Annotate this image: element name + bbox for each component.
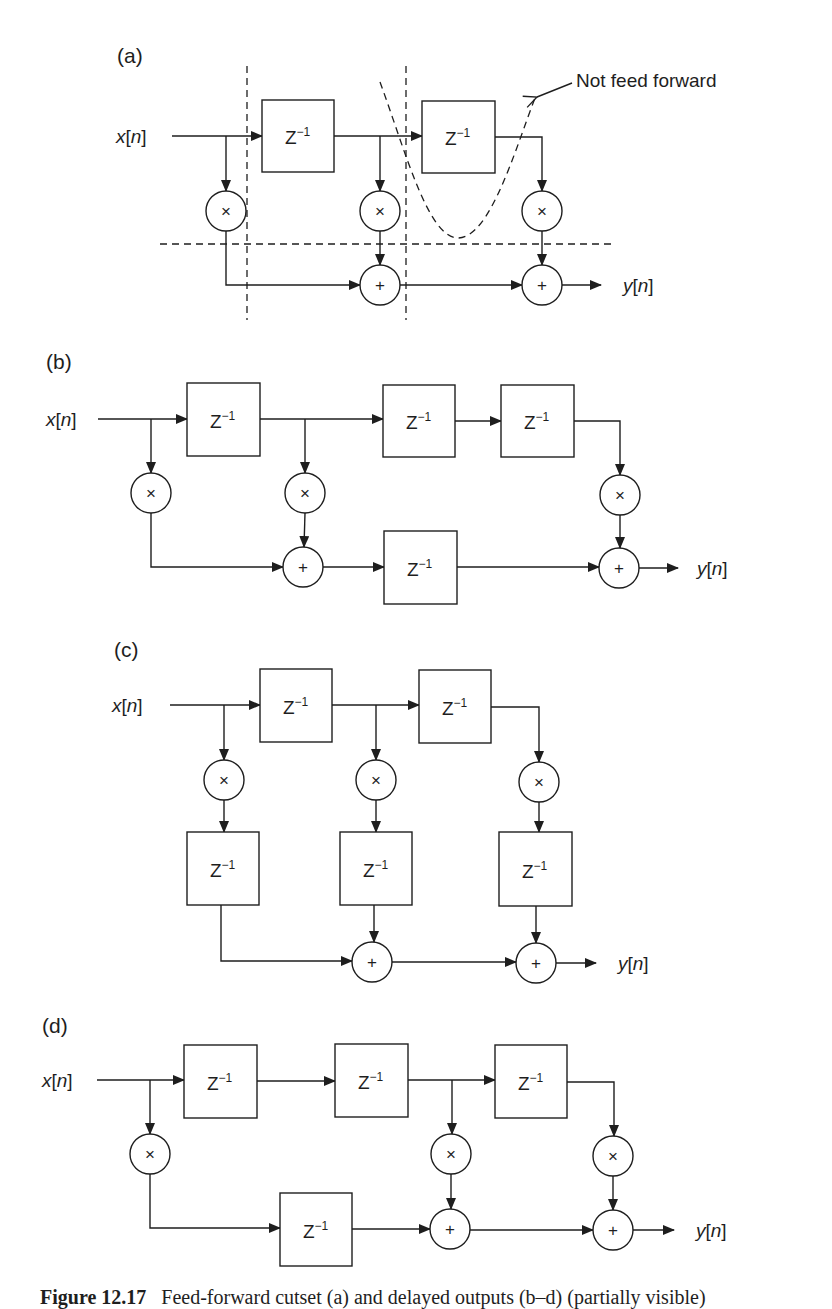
delay-block: Z−1	[419, 670, 491, 743]
adder-node: +	[593, 1210, 633, 1250]
panel-a-label: (a)	[117, 44, 143, 67]
multiplier-node: ×	[431, 1134, 471, 1174]
delay-block: Z−1	[262, 100, 334, 172]
input-label: x[n]	[41, 1070, 73, 1091]
multiplier-node: ×	[360, 191, 400, 231]
multiplier-node: ×	[356, 760, 396, 800]
output-label: y[n]	[694, 1220, 727, 1241]
svg-text:×: ×	[300, 484, 310, 503]
panel-d: (d) x[n] Z−1 Z−1 Z−1 Z−1 × × × + + y[n]	[41, 1014, 727, 1266]
delay-block: Z−1	[187, 832, 259, 905]
adder-node: +	[360, 265, 400, 305]
delay-block: Z−1	[335, 1044, 408, 1117]
svg-text:×: ×	[219, 771, 229, 790]
delay-block: Z−1	[184, 1045, 257, 1118]
svg-text:×: ×	[375, 202, 385, 221]
not-feed-forward-label: Not feed forward	[576, 70, 716, 91]
svg-text:+: +	[445, 1220, 455, 1239]
delay-block: Z−1	[383, 385, 455, 457]
adder-node: +	[352, 942, 392, 982]
multiplier-node: ×	[131, 473, 171, 513]
svg-text:+: +	[537, 276, 547, 295]
svg-text:×: ×	[537, 202, 547, 221]
svg-text:×: ×	[146, 484, 156, 503]
caption-text: Feed-forward cutset (a) and delayed outp…	[161, 1286, 705, 1308]
svg-text:+: +	[614, 559, 624, 578]
svg-text:×: ×	[615, 486, 625, 505]
panel-c: (c) x[n] Z−1 Z−1 Z−1 Z−1 Z−1 × × × + + y…	[111, 638, 649, 983]
multiplier-node: ×	[600, 475, 640, 515]
delay-block: Z−1	[495, 1045, 567, 1118]
adder-node: +	[430, 1209, 470, 1249]
multiplier-node: ×	[593, 1136, 633, 1176]
svg-text:×: ×	[608, 1147, 618, 1166]
delay-block: Z−1	[422, 101, 495, 173]
svg-text:×: ×	[534, 773, 544, 792]
panel-c-label: (c)	[114, 638, 139, 661]
svg-text:+: +	[608, 1221, 618, 1240]
svg-text:×: ×	[371, 771, 381, 790]
input-label: x[n]	[111, 695, 143, 716]
svg-text:+: +	[531, 954, 541, 973]
input-label: x[n]	[45, 409, 77, 430]
delay-block: Z−1	[499, 832, 572, 906]
delay-block: Z−1	[280, 1193, 352, 1266]
multiplier-node: ×	[130, 1134, 170, 1174]
delay-block: Z−1	[501, 385, 574, 457]
delay-block: Z−1	[384, 531, 457, 604]
multiplier-node: ×	[204, 760, 244, 800]
output-label: y[n]	[616, 953, 649, 974]
delay-block: Z−1	[260, 669, 332, 742]
multiplier-node: ×	[519, 762, 559, 802]
adder-node: +	[283, 547, 323, 587]
delay-block: Z−1	[187, 383, 260, 456]
svg-text:+: +	[375, 276, 385, 295]
multiplier-node: ×	[522, 191, 562, 231]
adder-node: +	[516, 943, 556, 983]
adder-node: +	[522, 265, 562, 305]
output-label: y[n]	[621, 275, 654, 296]
svg-text:×: ×	[221, 202, 231, 221]
svg-text:×: ×	[145, 1145, 155, 1164]
output-label: y[n]	[695, 558, 728, 579]
multiplier-node: ×	[285, 473, 325, 513]
input-label: x[n]	[115, 126, 147, 147]
figure-caption: Figure 12.17 Feed-forward cutset (a) and…	[40, 1286, 706, 1309]
svg-text:+: +	[367, 953, 377, 972]
panel-b: (b) x[n] Z−1 Z−1 Z−1 Z−1 × × × + + y[n]	[45, 350, 728, 604]
panel-d-label: (d)	[42, 1014, 68, 1037]
svg-text:×: ×	[446, 1145, 456, 1164]
panel-a: (a) x[n] Not feed forward Z−1 Z−1 × ×	[115, 44, 716, 320]
caption-number: Figure 12.17	[40, 1286, 146, 1308]
svg-text:+: +	[298, 558, 308, 577]
adder-node: +	[599, 548, 639, 588]
panel-b-label: (b)	[46, 350, 72, 373]
delay-block: Z−1	[340, 832, 412, 905]
multiplier-node: ×	[206, 191, 246, 231]
annotation-arrow	[537, 83, 572, 97]
